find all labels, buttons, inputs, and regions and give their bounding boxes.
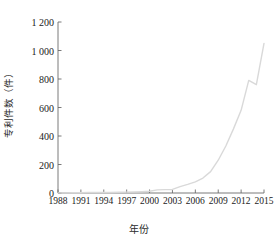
patent-count-line-chart: 专利件数（件） 02004006008001 0001 200 19881991…: [0, 0, 278, 243]
data-series-line: [58, 43, 264, 192]
axis-lines: [58, 22, 264, 193]
plot-area: [0, 0, 278, 243]
x-axis-title: 年份: [0, 221, 278, 236]
y-axis-tick-marks: [58, 22, 62, 193]
